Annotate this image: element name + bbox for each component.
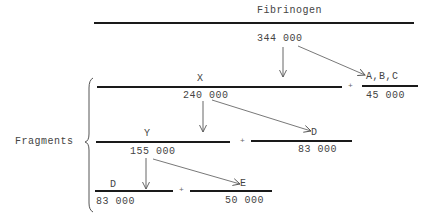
fragment-d1-mass: 83 000 <box>298 145 337 155</box>
fragments-brace <box>85 78 93 212</box>
fibrinogen-title: Fibrinogen <box>257 6 322 16</box>
plus-sign: + <box>240 136 245 146</box>
fragment-e-mass: 50 000 <box>225 196 264 206</box>
arrow-fibrinogen-to-abc <box>298 46 365 75</box>
fibrinogen-degradation-diagram: Fibrinogen 344 000 X 240 000 + A,B,C 45 … <box>0 0 435 221</box>
arrow-y-to-e <box>153 159 240 184</box>
fragment-y-label: Y <box>144 129 151 139</box>
fragments-group-label: Fragments <box>15 137 74 147</box>
fragment-d2-mass: 83 000 <box>96 197 135 207</box>
fragment-abc-label: A,B,C <box>366 72 399 82</box>
fragment-y-mass: 155 000 <box>130 147 176 157</box>
plus-sign: + <box>348 81 353 91</box>
fragment-d2-label: D <box>110 180 117 190</box>
plus-sign: + <box>179 185 184 195</box>
fragment-x-label: X <box>197 74 204 84</box>
fragment-abc-mass: 45 000 <box>366 91 405 101</box>
diagram-lines <box>0 0 435 221</box>
arrow-x-to-d <box>212 100 311 131</box>
fragment-e-label: E <box>240 179 247 189</box>
fragment-x-mass: 240 000 <box>183 91 229 101</box>
fibrinogen-mass: 344 000 <box>257 34 303 44</box>
fragment-d1-label: D <box>311 128 318 138</box>
